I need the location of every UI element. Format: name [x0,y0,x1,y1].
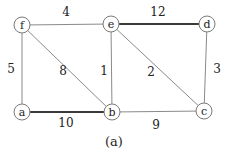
node-label: c [201,105,207,118]
edge-f-e [22,24,111,25]
edge-weight-b-c: 9 [152,118,160,132]
edge-e-c [111,24,204,111]
edge-weight-e-d: 12 [150,5,165,19]
node-b: b [104,104,120,120]
edge-d-c [204,24,207,111]
edge-e-b [111,24,112,112]
edge-weight-f-e: 4 [62,5,70,19]
node-label: a [19,106,26,119]
node-e: e [103,16,119,32]
node-label: e [108,18,115,31]
edge-weight-d-c: 3 [213,62,221,76]
nodes-layer: fedabc [14,16,215,120]
node-c: c [196,103,212,119]
figure-caption: (a) [105,134,123,149]
edge-weight-a-b: 10 [58,116,73,130]
node-label: d [203,18,210,31]
node-label: b [108,106,115,119]
edge-weight-e-b: 1 [100,64,108,78]
node-a: a [14,104,30,120]
node-d: d [199,16,215,32]
graph-canvas: 41258123109 fedabc (a) [0,0,235,154]
edge-f-b [22,25,112,112]
edges-layer [22,24,207,112]
graph-diagram: 41258123109 fedabc (a) [0,0,235,154]
edge-weight-f-b: 8 [59,64,67,78]
node-f: f [14,17,30,33]
edge-b-c [112,111,204,112]
edge-weight-f-a: 5 [7,62,15,76]
edge-weight-e-c: 2 [147,65,155,79]
